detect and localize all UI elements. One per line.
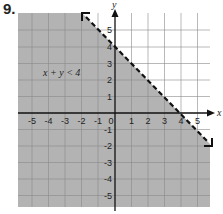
svg-text:-5: -5 [28,116,36,126]
svg-text:-4: -4 [104,174,112,184]
inequality-label: x + y < 4 [42,67,80,78]
svg-text:1: 1 [129,116,134,126]
svg-text:-5: -5 [104,191,112,201]
svg-text:-1: -1 [94,116,102,126]
svg-text:-3: -3 [104,158,112,168]
svg-text:2: 2 [107,75,112,85]
y-axis-label: y [111,0,117,10]
svg-text:1: 1 [107,92,112,102]
x-axis-label: x [216,107,222,118]
x-axis-arrow-icon [207,110,215,117]
svg-text:-1: -1 [104,125,112,135]
svg-text:-2: -2 [104,141,112,151]
svg-text:5: 5 [107,25,112,35]
svg-text:-3: -3 [61,116,69,126]
inequality-graph: x y -5 -4 -3 -2 -1 0 1 2 3 4 5 5 4 3 2 1… [0,0,223,214]
svg-text:-2: -2 [77,116,85,126]
svg-text:3: 3 [162,116,167,126]
svg-text:3: 3 [107,59,112,69]
svg-text:5: 5 [195,116,200,126]
svg-text:-4: -4 [44,116,52,126]
svg-text:2: 2 [145,116,150,126]
